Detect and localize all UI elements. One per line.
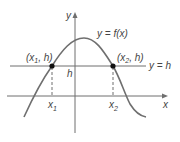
curve-label: y = f(x) <box>96 28 128 39</box>
x-axis-label: x <box>162 99 169 110</box>
point-2-label: (x2, h) <box>117 52 144 64</box>
h-label: h <box>67 68 73 79</box>
line-label: y = h <box>148 60 171 71</box>
intersection-point-2 <box>110 63 115 68</box>
x2-tick-label: x2 <box>108 99 118 112</box>
intersection-point-1 <box>49 63 54 68</box>
function-diagram: y x y = f(x) y = h h (x1, h) (x2, h) x1 … <box>0 0 180 142</box>
x1-tick-label: x1 <box>47 99 57 112</box>
point-1-label: (x1, h) <box>26 52 53 64</box>
x-axis-arrow-icon <box>162 94 168 99</box>
curve-f-x <box>24 38 146 117</box>
y-axis-arrow-icon <box>73 12 78 18</box>
y-axis-label: y <box>65 10 72 21</box>
